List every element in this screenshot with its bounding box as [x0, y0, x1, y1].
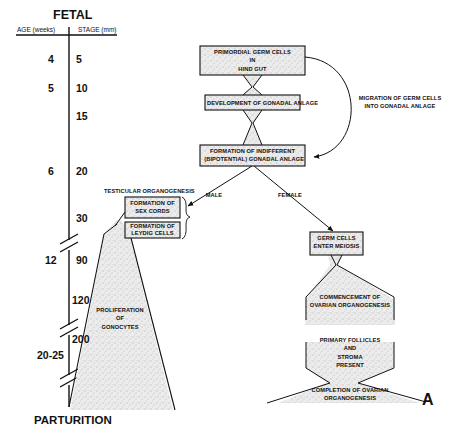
stage-15: 15: [76, 110, 88, 122]
gonad-development-diagram: FETAL AGE (weeks) STAGE (mm) 4 5 6 12 20…: [0, 0, 450, 434]
female-branch: [267, 232, 426, 403]
stage-30: 30: [76, 212, 88, 224]
male-label: MALE: [206, 191, 223, 199]
meiosis-line1: GERM CELLS: [312, 234, 361, 242]
female-label: FEMALE: [278, 191, 302, 199]
sex-cords-line1: FORMATION OF: [127, 199, 178, 207]
ovarian-start-line1: COMMENCEMENT OF: [307, 293, 393, 301]
gonocytes-line2: OF: [88, 314, 152, 322]
ovarian-end-line1: COMPLETION OF OVARIAN: [304, 386, 396, 394]
meiosis-line2: ENTER MEIOSIS: [312, 242, 361, 250]
pgc-label-line1: PRIMORDIAL GERM CELLS: [204, 48, 301, 56]
follicles-line4: PRESENT: [310, 361, 391, 369]
age-column-header: AGE (weeks): [17, 26, 55, 33]
age-4: 4: [48, 53, 54, 65]
migration-label-line2: INTO GONADAL ANLAGE: [359, 102, 442, 110]
indifferent-label-line2: (BIPOTENTIAL) GONADAL ANLAGE: [204, 155, 301, 163]
age-20-25: 20-25: [37, 349, 64, 361]
sex-cords-label: FORMATION OF SEX CORDS: [127, 199, 178, 216]
gonocytes-line1: PROLIFERATION: [88, 306, 152, 314]
migration-label-line1: MIGRATION OF GERM CELLS: [359, 94, 442, 102]
age-12: 12: [45, 254, 57, 266]
stage-10: 10: [76, 82, 88, 94]
indifferent-label-line1: FORMATION OF INDIFFERENT: [204, 147, 301, 155]
follicles-line1: PRIMARY FOLLICLES: [310, 336, 391, 344]
male-branch-arrow: [188, 166, 252, 206]
stage-20: 20: [76, 165, 88, 177]
ovarian-completion-label: COMPLETION OF OVARIAN ORGANOGENESIS: [304, 386, 396, 403]
ovarian-start-line2: OVARIAN ORGANOGENESIS: [307, 301, 393, 309]
age-5: 5: [48, 82, 54, 94]
sex-cords-line2: SEX CORDS: [127, 207, 178, 215]
pgc-label-line3: HIND GUT: [204, 65, 301, 73]
testicular-organogenesis-label: TESTICULAR ORGANOGENESIS: [104, 187, 195, 195]
gonocytes-label: PROLIFERATION OF GONOCYTES: [88, 306, 152, 331]
ovarian-commencement-label: COMMENCEMENT OF OVARIAN ORGANOGENESIS: [307, 293, 393, 310]
parturition-label: PARTURITION: [34, 414, 112, 426]
ovarian-end-line2: ORGANOGENESIS: [304, 394, 396, 402]
stage-column-header: STAGE (mm): [78, 26, 117, 33]
indifferent-anlage-label: FORMATION OF INDIFFERENT (BIPOTENTIAL) G…: [204, 147, 301, 164]
meiosis-label: GERM CELLS ENTER MEIOSIS: [312, 234, 361, 251]
primary-follicles-label: PRIMARY FOLLICLES AND STROMA PRESENT: [310, 336, 391, 370]
gonocytes-line3: GONOCYTES: [88, 323, 152, 331]
fetal-title: FETAL: [53, 8, 92, 22]
stage-90: 90: [76, 254, 88, 266]
pgc-label-line2: IN: [204, 56, 301, 64]
leydig-line1: FORMATION OF: [127, 222, 178, 229]
migration-label: MIGRATION OF GERM CELLS INTO GONADAL ANL…: [359, 94, 442, 111]
migration-arrow: [305, 57, 351, 157]
gonadal-anlage-label: DEVELOPMENT OF GONADAL ANLAGE: [207, 99, 298, 107]
leydig-cells-label: FORMATION OF LEYDIG CELLS: [127, 222, 178, 236]
stage-5: 5: [76, 53, 82, 65]
pgc-label: PRIMORDIAL GERM CELLS IN HIND GUT: [204, 48, 301, 73]
leydig-line2: LEYDIG CELLS: [127, 229, 178, 236]
stage-120: 120: [72, 294, 90, 306]
stage-200: 200: [72, 333, 90, 345]
follicles-line2: AND: [310, 344, 391, 352]
panel-letter: A: [422, 391, 434, 409]
age-6: 6: [48, 165, 54, 177]
follicles-line3: STROMA: [310, 353, 391, 361]
